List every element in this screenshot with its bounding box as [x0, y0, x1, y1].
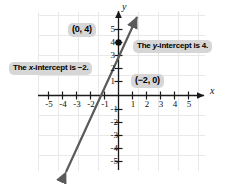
y-tick-label: -5 — [104, 157, 118, 166]
x-tick-label: 1 — [127, 100, 139, 109]
x-tick-label: 4 — [169, 100, 181, 109]
callout-point-y-intercept: (0, 4) — [68, 23, 96, 37]
y-tick-label: -3 — [104, 131, 118, 140]
callout-point-x-intercept: (−2, 0) — [131, 74, 164, 88]
y-axis-label: y — [122, 1, 126, 12]
x-tick-label: -4 — [56, 100, 70, 109]
note-x-suffix: -intercept is −2. — [33, 63, 89, 72]
y-tick-label: 1 — [104, 77, 115, 86]
note-y-prefix: The — [137, 41, 153, 50]
graph-figure: y x -5 -4 -3 -2 -1 1 2 3 4 5 5 4 3 2 1 -… — [0, 0, 226, 184]
x-tick-label: 5 — [183, 100, 195, 109]
x-tick-label: 3 — [155, 100, 167, 109]
y-tick-label: -4 — [104, 144, 118, 153]
note-x-prefix: The — [13, 63, 29, 72]
x-tick-label: -5 — [42, 100, 56, 109]
y-tick-label: -1 — [104, 105, 118, 114]
y-tick-label: 2 — [104, 64, 115, 73]
note-y-suffix: -intercept is 4. — [157, 41, 208, 50]
x-tick-label: -2 — [84, 100, 98, 109]
y-tick-label: 4 — [104, 38, 115, 47]
y-tick-label: 3 — [104, 51, 115, 60]
point-marker-y-intercept — [115, 39, 121, 45]
x-axis-label: x — [210, 85, 214, 96]
x-tick-label: 2 — [141, 100, 153, 109]
y-tick-label: 5 — [104, 25, 115, 34]
x-tick-label: -3 — [70, 100, 84, 109]
y-tick-label: -2 — [104, 118, 118, 127]
callout-x-intercept-note: The x-intercept is −2. — [9, 62, 92, 75]
callout-y-intercept-note: The y-intercept is 4. — [133, 40, 212, 53]
